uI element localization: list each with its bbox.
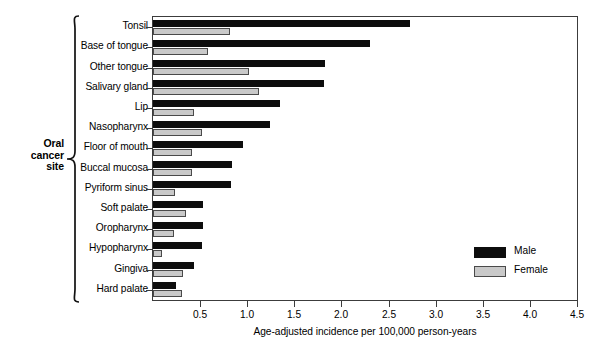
bar-female-buccal-mucosa (153, 169, 192, 176)
bar-female-floor-of-mouth (153, 149, 192, 156)
legend-label-female: Female (514, 264, 548, 275)
x-tick-label-3.5: 3.5 (463, 309, 503, 320)
x-tick-1.5 (294, 301, 295, 307)
category-label-oropharynx: Oropharynx (70, 222, 148, 233)
y-tick-3 (146, 88, 153, 89)
category-axis-labels: TonsilBase of tongueOther tongueSalivary… (70, 16, 148, 301)
x-tick-label-0.5: 0.5 (180, 309, 220, 320)
x-tick-label-2.0: 2.0 (321, 309, 361, 320)
bar-male-buccal-mucosa (153, 161, 232, 168)
category-label-tonsil: Tonsil (70, 20, 148, 31)
category-label-hard-palate: Hard palate (70, 283, 148, 294)
chart-legend: Male Female (474, 244, 564, 282)
x-axis-title: Age-adjusted incidence per 100,000 perso… (152, 326, 578, 337)
category-label-base-of-tongue: Base of tongue (70, 40, 148, 51)
category-label-other-tongue: Other tongue (70, 61, 148, 72)
y-tick-10 (146, 229, 153, 230)
category-label-soft-palate: Soft palate (70, 202, 148, 213)
bar-male-oropharynx (153, 222, 203, 229)
y-axis-title: Oral cancer site (2, 138, 64, 173)
bar-female-gingiva (153, 270, 183, 277)
x-tick-3.5 (483, 301, 484, 307)
y-tick-4 (146, 108, 153, 109)
bar-male-nasopharynx (153, 121, 270, 128)
x-tick-1.0 (247, 301, 248, 307)
y-axis-title-line-1: Oral (2, 138, 64, 150)
x-tick-2.5 (389, 301, 390, 307)
x-tick-label-3.0: 3.0 (416, 309, 456, 320)
x-tick-2.0 (341, 301, 342, 307)
bar-male-hard-palate (153, 282, 176, 289)
x-tick-4.5 (577, 301, 578, 307)
category-label-gingiva: Gingiva (70, 263, 148, 274)
bar-male-salivary-gland (153, 80, 324, 87)
x-tick-0.5 (200, 301, 201, 307)
x-tick-label-2.5: 2.5 (369, 309, 409, 320)
y-tick-8 (146, 189, 153, 190)
bar-female-base-of-tongue (153, 48, 208, 55)
category-label-pyriform-sinus: Pyriform sinus (70, 182, 148, 193)
y-tick-5 (146, 128, 153, 129)
category-label-nasopharynx: Nasopharynx (70, 121, 148, 132)
bar-female-salivary-gland (153, 88, 259, 95)
y-tick-7 (146, 169, 153, 170)
category-label-hypopharynx: Hypopharynx (70, 242, 148, 253)
bar-female-nasopharynx (153, 129, 202, 136)
bar-male-pyriform-sinus (153, 181, 231, 188)
x-tick-label-4.5: 4.5 (557, 309, 597, 320)
y-tick-9 (146, 209, 153, 210)
y-tick-12 (146, 270, 153, 271)
legend-swatch-female-icon (474, 266, 506, 277)
legend-label-male: Male (514, 245, 536, 256)
oral-cancer-incidence-chart: Oral cancer site TonsilBase of tongueOth… (0, 0, 597, 351)
x-tick-4.0 (530, 301, 531, 307)
bar-male-hypopharynx (153, 242, 202, 249)
category-label-lip: Lip (70, 101, 148, 112)
y-tick-1 (146, 47, 153, 48)
bar-male-soft-palate (153, 201, 203, 208)
bar-female-hypopharynx (153, 250, 162, 257)
x-tick-label-1.5: 1.5 (274, 309, 314, 320)
bar-female-pyriform-sinus (153, 189, 175, 196)
bar-male-tonsil (153, 20, 410, 27)
bar-female-tonsil (153, 28, 230, 35)
y-tick-6 (146, 148, 153, 149)
y-axis-title-line-3: site (2, 161, 64, 173)
bar-female-other-tongue (153, 68, 249, 75)
legend-swatch-male-icon (474, 247, 506, 258)
bar-female-hard-palate (153, 290, 182, 297)
bar-male-gingiva (153, 262, 194, 269)
y-tick-13 (146, 290, 153, 291)
y-tick-2 (146, 68, 153, 69)
y-tick-0 (146, 27, 153, 28)
x-tick-3.0 (436, 301, 437, 307)
bar-male-base-of-tongue (153, 40, 370, 47)
category-label-buccal-mucosa: Buccal mucosa (70, 162, 148, 173)
bar-male-lip (153, 100, 280, 107)
legend-item-female: Female (474, 263, 564, 282)
category-label-salivary-gland: Salivary gland (70, 81, 148, 92)
bar-female-oropharynx (153, 230, 174, 237)
x-tick-label-4.0: 4.0 (510, 309, 550, 320)
bar-male-other-tongue (153, 60, 325, 67)
bar-male-floor-of-mouth (153, 141, 243, 148)
y-tick-11 (146, 249, 153, 250)
category-label-floor-of-mouth: Floor of mouth (70, 141, 148, 152)
bar-female-soft-palate (153, 210, 186, 217)
x-tick-label-1.0: 1.0 (227, 309, 267, 320)
legend-item-male: Male (474, 244, 564, 263)
bar-female-lip (153, 109, 194, 116)
